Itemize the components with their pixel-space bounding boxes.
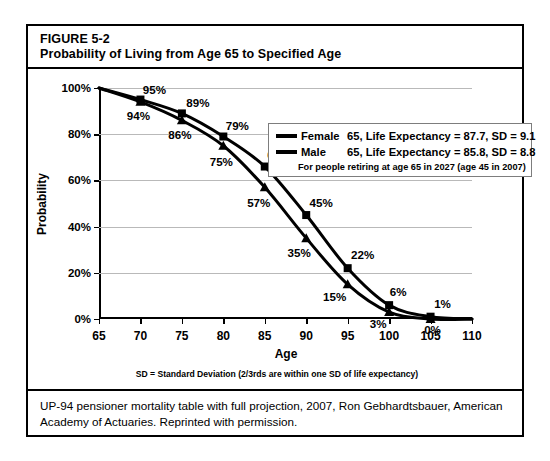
x-tick-label: 95 [341, 329, 354, 343]
x-tick-label: 110 [462, 329, 481, 343]
x-tick-mark [99, 319, 100, 324]
x-tick-label: 85 [258, 329, 271, 343]
legend-line-male-icon [276, 150, 297, 153]
data-point-marker-female [219, 133, 227, 141]
data-label-female: 6% [390, 285, 407, 298]
legend-line-female-icon [276, 134, 297, 137]
chart-area: Probability 0%20%40%60%80%100% 657075808… [28, 77, 522, 389]
figure-number: FIGURE 5-2 [40, 32, 522, 47]
legend-note: For people retiring at age 65 in 2027 (a… [276, 162, 525, 172]
data-label-female: 45% [310, 196, 333, 209]
data-label-female: 22% [351, 248, 374, 261]
x-tick-mark [348, 319, 349, 324]
legend-item-male: Male 65, Life Expectancy = 85.8, SD = 8.… [276, 144, 525, 160]
x-tick-label: 65 [92, 329, 105, 343]
y-tick-label: 80% [68, 128, 91, 140]
data-label-male: 3% [370, 317, 387, 330]
legend-desc-male: 65, Life Expectancy = 85.8, SD = 8.8 [347, 146, 535, 158]
legend-desc-female: 65, Life Expectancy = 87.7, SD = 9.1 [347, 130, 535, 142]
data-label-female: 95% [143, 82, 166, 95]
x-tick-label: 70 [134, 329, 147, 343]
y-axis-title: Probability [35, 173, 49, 235]
x-tick-label: 100 [379, 329, 399, 343]
y-tick-label: 100% [62, 82, 91, 94]
x-tick-mark [265, 319, 266, 324]
data-label-male: 75% [210, 154, 233, 167]
y-tick-label: 40% [68, 221, 91, 233]
x-tick-label: 90 [300, 329, 313, 343]
data-label-female: 1% [434, 296, 451, 309]
legend-label-female: Female [301, 130, 347, 142]
data-point-marker-female [344, 264, 352, 272]
y-tick-label: 0% [74, 313, 91, 325]
legend-item-female: Female 65, Life Expectancy = 87.7, SD = … [276, 128, 525, 144]
data-point-marker-female [302, 211, 310, 219]
x-tick-label: 75 [175, 329, 188, 343]
x-tick-mark [223, 319, 224, 324]
x-axis-title: Age [275, 347, 298, 361]
data-label-male: 35% [288, 246, 311, 259]
legend-label-male: Male [301, 146, 347, 158]
data-label-female: 79% [226, 118, 249, 131]
x-tick-mark [182, 319, 183, 324]
figure-title: Probability of Living from Age 65 to Spe… [40, 47, 522, 62]
data-label-male: 94% [127, 108, 150, 121]
data-label-male: 86% [168, 128, 191, 141]
chart-legend: Female 65, Life Expectancy = 87.7, SD = … [268, 123, 532, 177]
figure-header: FIGURE 5-2 Probability of Living from Ag… [28, 26, 522, 69]
data-label-female: 89% [186, 96, 209, 109]
chart-footnote: SD = Standard Deviation (2/3rds are with… [136, 369, 418, 379]
y-tick-label: 20% [68, 267, 91, 279]
data-label-male: 15% [323, 290, 346, 303]
data-label-male: 0% [424, 323, 441, 336]
data-label-male: 57% [247, 196, 270, 209]
x-tick-label: 80 [217, 329, 230, 343]
figure-card: FIGURE 5-2 Probability of Living from Ag… [26, 24, 524, 437]
x-tick-mark [140, 319, 141, 324]
source-note: UP-94 pensioner mortality table with ful… [28, 389, 522, 435]
y-tick-label: 60% [68, 174, 91, 186]
x-tick-mark [389, 319, 390, 324]
x-tick-mark [306, 319, 307, 324]
